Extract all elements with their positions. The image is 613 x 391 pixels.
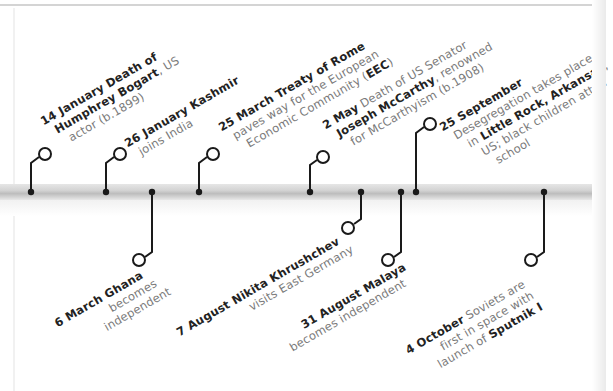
- timeline-dot-icon: [413, 189, 419, 195]
- event-marker-circle-icon: [342, 222, 354, 234]
- event-marker-circle-icon: [525, 254, 537, 266]
- connector-7-august: [342, 189, 364, 234]
- timeline-dot-icon: [541, 189, 547, 195]
- connector-2-may: [307, 151, 329, 195]
- timeline-dot-icon: [307, 189, 313, 195]
- timeline-dot-icon: [103, 189, 109, 195]
- page-edge-shadow: [592, 0, 606, 391]
- timeline-dot-icon: [196, 189, 202, 195]
- event-marker-circle-icon: [424, 118, 436, 130]
- connector-6-march: [133, 189, 155, 266]
- connector-26-january: [103, 148, 126, 195]
- timeline-dot-icon: [358, 189, 364, 195]
- connector-4-october: [525, 189, 547, 266]
- event-marker-circle-icon: [317, 151, 329, 163]
- connector-25-march: [196, 148, 219, 195]
- timeline-dot-icon: [149, 189, 155, 195]
- event-marker-circle-icon: [114, 148, 126, 160]
- connector-31-august: [382, 189, 404, 266]
- connector-14-january: [28, 148, 51, 195]
- event-marker-circle-icon: [39, 148, 51, 160]
- timeline-dot-icon: [398, 189, 404, 195]
- event-marker-circle-icon: [133, 254, 145, 266]
- connector-25-september: [413, 118, 436, 195]
- event-marker-circle-icon: [207, 148, 219, 160]
- timeline-dot-icon: [28, 189, 34, 195]
